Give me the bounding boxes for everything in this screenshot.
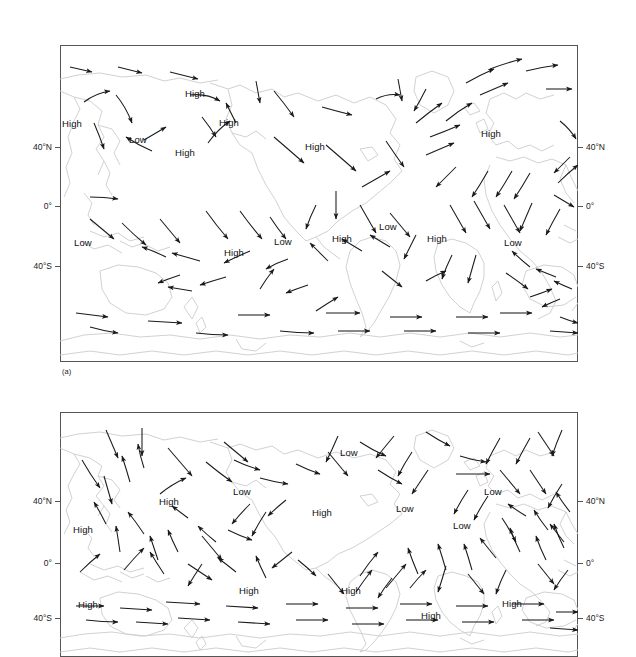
panel-a-map-graphic — [60, 45, 578, 362]
pressure-label: High — [502, 599, 522, 609]
pressure-label: Low — [74, 238, 92, 248]
panel-b-tick-40n-right — [578, 501, 583, 502]
pressure-label: High — [62, 119, 82, 129]
panel-a-tick-0-left — [55, 206, 60, 207]
pressure-label: Low — [129, 135, 147, 145]
panel-b-axis-label-40s-right: 40°S — [586, 614, 605, 623]
panel-a-tick-0-right — [578, 206, 583, 207]
panel-b-tick-0-right — [578, 563, 583, 564]
pressure-label: High — [239, 586, 259, 596]
pressure-label: High — [73, 525, 93, 535]
panel-a-axis-label-0-left: 0° — [14, 202, 52, 211]
panel-b-axis-label-0-right: 0° — [586, 559, 594, 568]
pressure-label: Low — [484, 487, 502, 497]
pressure-label: Low — [379, 222, 397, 232]
panel-b-tick-40s-right — [578, 618, 583, 619]
map-panel-a — [60, 45, 578, 362]
panel-a-axis-label-0-right: 0° — [586, 202, 594, 211]
panel-b-tick-0-left — [55, 563, 60, 564]
panel-b-tick-40n — [55, 501, 60, 502]
panel-a-axis-label-40n-left: 40°N — [14, 143, 52, 152]
panel-b-map-graphic — [60, 412, 578, 657]
panel-b-tick-40s — [55, 618, 60, 619]
pressure-label: High — [78, 600, 98, 610]
pressure-label: High — [481, 129, 501, 139]
panel-b-axis-label-40n-right: 40°N — [586, 497, 605, 506]
pressure-label: High — [159, 497, 179, 507]
pressure-label: High — [427, 234, 447, 244]
panel-a-tick-40n-right — [578, 147, 583, 148]
panel-a-axis-label-40n-right: 40°N — [586, 143, 605, 152]
map-panel-b — [60, 412, 578, 657]
pressure-label: Low — [274, 237, 292, 247]
pressure-label: High — [175, 148, 195, 158]
pressure-label: High — [185, 89, 205, 99]
panel-a-tick-40s — [55, 266, 60, 267]
panel-a-tag: (a) — [62, 368, 71, 376]
panel-a-axis-label-40s-right: 40°S — [586, 262, 605, 271]
pressure-label: High — [332, 234, 352, 244]
panel-a-tick-40n — [55, 147, 60, 148]
pressure-label: High — [305, 142, 325, 152]
panel-b-axis-label-40s-left: 40°S — [14, 614, 52, 623]
panel-a-tick-40s-right — [578, 266, 583, 267]
panel-b-axis-label-0-left: 0° — [14, 559, 52, 568]
panel-b-axis-label-40n-left: 40°N — [14, 497, 52, 506]
pressure-label: High — [421, 611, 441, 621]
panel-a-axis-label-40s-left: 40°S — [14, 262, 52, 271]
wind-field-figure: 40°N 0° 40°S 40°N 0° 40°S High Low High … — [0, 0, 636, 657]
pressure-label: Low — [453, 521, 471, 531]
pressure-label: High — [224, 248, 244, 258]
pressure-label: Low — [396, 504, 414, 514]
pressure-label: High — [219, 118, 239, 128]
pressure-label: High — [312, 508, 332, 518]
pressure-label: High — [341, 586, 361, 596]
pressure-label: Low — [233, 487, 251, 497]
pressure-label: Low — [504, 238, 522, 248]
pressure-label: Low — [340, 448, 358, 458]
